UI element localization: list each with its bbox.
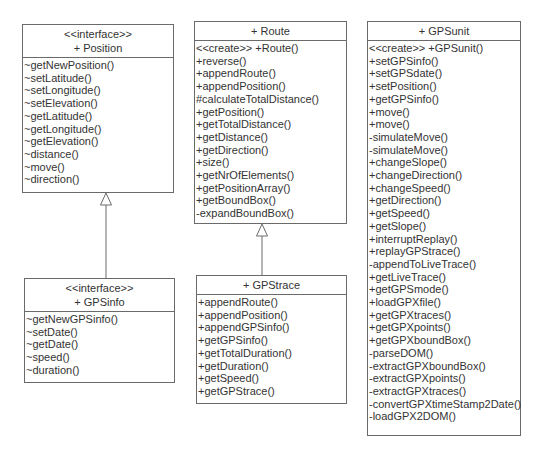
operation: <<create>> +Route() [196, 42, 346, 55]
operation: +getSpeed() [369, 207, 520, 220]
stereotype-label: <<interface>> [25, 281, 174, 295]
operation: +interruptReplay() [369, 233, 520, 246]
class-name: + GPSunit [368, 24, 520, 38]
class-gpsunit[interactable]: + GPSunit <<create>> +GPSunit() +setGPSi… [367, 21, 521, 436]
class-header: <<interface>> + Position [23, 25, 173, 58]
operation: +getTotalDistance() [196, 118, 346, 131]
operation: <<create>> +GPSunit() [369, 42, 520, 55]
operations-list: +appendRoute() +appendPosition() +append… [197, 295, 346, 398]
operation: +getSpeed() [198, 372, 346, 385]
class-name: + GPSinfo [25, 295, 174, 309]
operation: ~setDate() [26, 326, 174, 339]
operation: -expandBoundBox() [196, 207, 346, 220]
operation: -convertGPXtimeStamp2Date() [369, 398, 520, 411]
class-name: + Route [195, 24, 346, 38]
operation: ~getNewGPSinfo() [26, 313, 174, 326]
operation: ~move() [24, 161, 173, 174]
operation: -simulateMove() [369, 131, 520, 144]
operation: ~speed() [26, 351, 174, 364]
operation: +setPosition() [369, 80, 520, 93]
operation: +getGPSinfo() [369, 93, 520, 106]
operations-list: ~getNewPosition() ~setLatitude() ~setLon… [23, 58, 173, 186]
operation: +appendRoute() [196, 67, 346, 80]
operation: +getSlope() [369, 220, 520, 233]
operation: +getGPXtraces() [369, 309, 520, 322]
operation: +getGPSmode() [369, 283, 520, 296]
class-name: + GPStrace [197, 278, 346, 292]
operations-list: <<create>> +Route() +reverse() +appendRo… [195, 41, 346, 220]
operation: ~setLatitude() [24, 72, 173, 85]
class-name: + Position [23, 41, 173, 55]
operation: +appendPosition() [196, 80, 346, 93]
operation: +getDuration() [198, 360, 346, 373]
operation: +getTotalDuration() [198, 347, 346, 360]
operation: +reverse() [196, 55, 346, 68]
operations-list: ~getNewGPSinfo() ~setDate() ~getDate() ~… [25, 312, 174, 377]
operation: +getNrOfElements() [196, 169, 346, 182]
operation: +setGPSdate() [369, 67, 520, 80]
operation: -loadGPX2DOM() [369, 410, 520, 423]
operation: ~getNewPosition() [24, 59, 173, 72]
operation: -parseDOM() [369, 347, 520, 360]
operation: -simulateMove() [369, 144, 520, 157]
operation: -extractGPXtraces() [369, 385, 520, 398]
operation: +setGPSinfo() [369, 55, 520, 68]
operation: +getGPSinfo() [198, 334, 346, 347]
operation: ~direction() [24, 173, 173, 186]
operation: +replayGPStrace() [369, 245, 520, 258]
operation: +getPosition() [196, 106, 346, 119]
operation: ~setLongitude() [24, 84, 173, 97]
inheritance-arrow-icon [257, 224, 268, 236]
operation: -extractGPXpoints() [369, 372, 520, 385]
operation: #calculateTotalDistance() [196, 93, 346, 106]
class-route[interactable]: + Route <<create>> +Route() +reverse() +… [194, 21, 347, 224]
operation: ~duration() [26, 364, 174, 377]
operation: ~distance() [24, 148, 173, 161]
operation: +move() [369, 118, 520, 131]
stereotype-label: <<interface>> [23, 27, 173, 41]
operation: ~getDate() [26, 338, 174, 351]
operation: ~setElevation() [24, 97, 173, 110]
operation: +getGPXpoints() [369, 321, 520, 334]
operation: +appendPosition() [198, 309, 346, 322]
operation: +getGPXboundBox() [369, 334, 520, 347]
operation: +size() [196, 156, 346, 169]
operation: +getPositionArray() [196, 182, 346, 195]
class-header: + GPStrace [197, 276, 346, 295]
generalization-gpsinfo-to-position [101, 193, 112, 278]
operation: -appendToLiveTrace() [369, 258, 520, 271]
class-position[interactable]: <<interface>> + Position ~getNewPosition… [22, 24, 174, 193]
operation: +loadGPXfile() [369, 296, 520, 309]
class-gpstrace[interactable]: + GPStrace +appendRoute() +appendPositio… [196, 275, 347, 404]
operation: ~getLatitude() [24, 110, 173, 123]
operation: ~getElevation() [24, 135, 173, 148]
operation: +appendGPSinfo() [198, 321, 346, 334]
operation: +appendRoute() [198, 296, 346, 309]
operation: ~getLongitude() [24, 123, 173, 136]
operation: +getDistance() [196, 131, 346, 144]
operation: -extractGPXboundBox() [369, 360, 520, 373]
operation: +getDirection() [369, 194, 520, 207]
class-gpsinfo[interactable]: <<interface>> + GPSinfo ~getNewGPSinfo()… [24, 278, 175, 383]
operation: +changeSlope() [369, 156, 520, 169]
class-header: + Route [195, 22, 346, 41]
operation: +changeDirection() [369, 169, 520, 182]
operation: +getLiveTrace() [369, 271, 520, 284]
class-header: + GPSunit [368, 22, 520, 41]
operation: +getGPStrace() [198, 385, 346, 398]
inheritance-arrow-icon [101, 193, 112, 205]
class-header: <<interface>> + GPSinfo [25, 279, 174, 312]
operations-list: <<create>> +GPSunit() +setGPSinfo() +set… [368, 41, 520, 423]
generalization-gpstrace-to-route [257, 224, 268, 275]
operation: +getDirection() [196, 144, 346, 157]
operation: +changeSpeed() [369, 182, 520, 195]
operation: +getBoundBox() [196, 194, 346, 207]
operation: +move() [369, 106, 520, 119]
